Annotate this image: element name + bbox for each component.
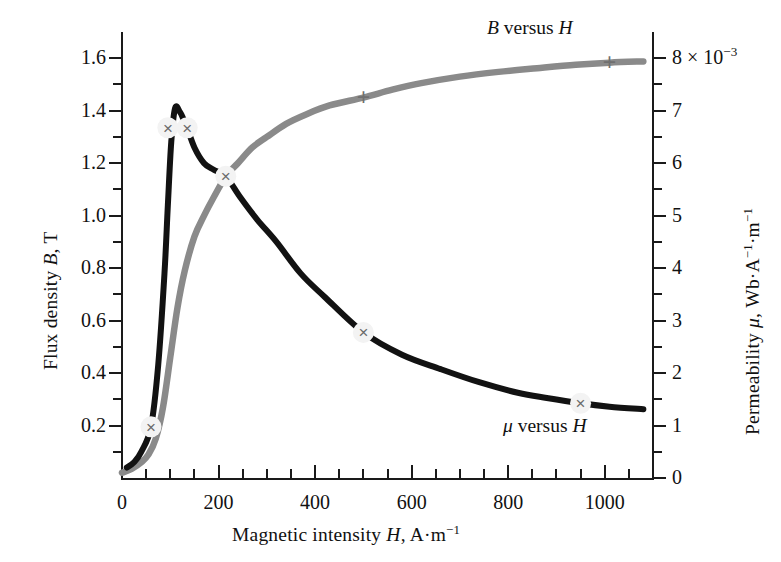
marker-cross-mu-3: ×	[215, 166, 236, 187]
y-axis-left-title: Flux density B, T	[40, 232, 62, 371]
marker-cross-mu-2: ×	[177, 117, 198, 138]
marker-cross-mu-0: ×	[140, 416, 161, 437]
marker-glyph-plus: +	[357, 84, 370, 110]
x-axis-title: Magnetic intensity H, A·m−1	[232, 524, 460, 546]
marker-cross-mu-1: ×	[157, 117, 178, 138]
y-right-title-mid: ·m	[742, 222, 763, 244]
marker-cross-mu-4: ×	[353, 322, 374, 343]
marker-glyph-plus: +	[603, 49, 616, 75]
y-right-title-unit: , Wb·A	[742, 258, 763, 318]
y-right-title-symbol: μ	[742, 318, 763, 328]
marker-glyph-cross: ×	[146, 418, 156, 437]
y-left-title-unit: , T	[40, 232, 61, 254]
y-left-title-symbol: B	[40, 253, 61, 265]
marker-glyph-cross: ×	[221, 167, 231, 186]
x-title-text: Magnetic intensity	[232, 524, 386, 545]
series-annotation-mu-versus-h: μ μ versus Hversus H	[503, 415, 586, 437]
series-annotation-b-versus-h: B B versus Hversus H	[487, 17, 573, 39]
marker-glyph-cross: ×	[163, 119, 173, 138]
marker-glyph-cross: ×	[358, 323, 368, 342]
y-axis-right-title: Permeability μ, Wb·A−1·m−1	[742, 208, 764, 435]
y-left-title-text: Flux density	[40, 266, 61, 370]
x-title-symbol: H	[386, 524, 400, 545]
magnetization-curve-figure: 0.20.40.60.81.01.21.41.6012345678 × 10−3…	[0, 0, 781, 562]
y-right-title-text: Permeability	[742, 328, 763, 435]
marker-plus-b-1: +	[603, 49, 616, 75]
marker-glyph-cross: ×	[182, 119, 192, 138]
x-title-exp: −1	[446, 523, 460, 537]
curve-b-versus-h	[122, 61, 643, 472]
y-right-title-exp2: −1	[741, 208, 755, 222]
curve-mu-versus-h	[127, 106, 644, 467]
plot-curves: ++××××××	[0, 0, 781, 562]
y-right-title-exp1: −1	[741, 244, 755, 258]
marker-plus-b-0: +	[357, 84, 370, 110]
x-title-unit: , A·m	[401, 524, 446, 545]
marker-cross-mu-5: ×	[570, 393, 591, 414]
marker-glyph-cross: ×	[576, 394, 586, 413]
